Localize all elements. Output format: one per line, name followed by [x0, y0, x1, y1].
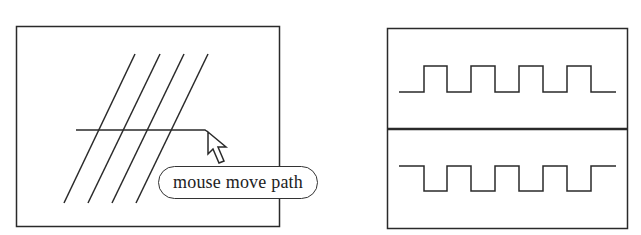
mouse-move-path-label: mouse move path — [158, 166, 318, 199]
figure-canvas — [0, 0, 641, 235]
bottom-square-wave — [399, 166, 616, 191]
top-square-wave — [399, 66, 616, 92]
mouse-move-path — [76, 130, 208, 132]
arrow-cursor-icon — [208, 132, 226, 163]
